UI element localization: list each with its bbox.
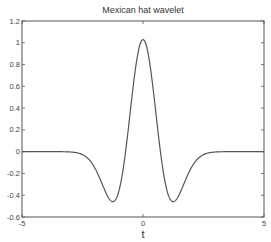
x-tick-label: -5 bbox=[19, 219, 26, 228]
y-axis-ticks: 1.210.80.60.40.20-0.2-0.4-0.6 bbox=[7, 17, 264, 222]
y-tick-label: 0 bbox=[16, 147, 20, 156]
y-tick-label: 0.2 bbox=[10, 125, 20, 134]
y-tick-label: 0.8 bbox=[10, 60, 20, 69]
chart-title: Mexican hat wavelet bbox=[102, 5, 184, 15]
mexican-hat-chart: Mexican hat wavelet 1.210.80.60.40.20-0.… bbox=[0, 0, 271, 242]
x-tick-label: 0 bbox=[141, 219, 145, 228]
x-axis-ticks: -505 bbox=[19, 21, 266, 228]
y-tick-label: -0.2 bbox=[7, 169, 20, 178]
x-axis-label: t bbox=[141, 228, 144, 240]
axes-frame bbox=[22, 21, 264, 217]
y-tick-label: 0.4 bbox=[10, 104, 20, 113]
y-tick-label: -0.4 bbox=[7, 191, 20, 200]
x-tick-label: 5 bbox=[262, 219, 266, 228]
y-tick-label: 1.2 bbox=[10, 17, 20, 26]
wavelet-curve bbox=[22, 40, 264, 202]
y-tick-label: 0.6 bbox=[10, 82, 20, 91]
y-tick-label: 1 bbox=[16, 38, 20, 47]
